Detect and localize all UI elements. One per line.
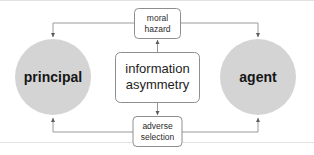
node-moral-hazard[interactable]: moral hazard <box>135 9 181 39</box>
node-information-asymmetry[interactable]: information asymmetry <box>116 53 200 103</box>
node-adverse-selection[interactable]: adverse selection <box>133 117 182 147</box>
adverse-selection-label-line2: selection <box>141 132 175 142</box>
connector-moral-hazard-to-agent <box>181 23 259 37</box>
adverse-selection-label-line1: adverse <box>142 121 173 131</box>
moral-hazard-label-line2: hazard <box>145 24 171 34</box>
connector-adverse-selection-to-agent <box>182 118 258 132</box>
center-label-line1: information <box>125 61 189 76</box>
center-label-line2: asymmetry <box>126 77 190 92</box>
agent-label: agent <box>239 69 277 85</box>
principal-label: principal <box>24 69 82 85</box>
node-principal[interactable]: principal <box>15 39 91 115</box>
diagram-svg: principal agent moral hazard information… <box>0 0 314 155</box>
moral-hazard-label-line1: moral <box>147 13 168 23</box>
connector-moral-hazard-to-principal <box>53 23 135 37</box>
connector-adverse-selection-to-principal <box>53 118 133 132</box>
diagram-canvas: principal agent moral hazard information… <box>0 0 314 155</box>
node-agent[interactable]: agent <box>220 39 296 115</box>
